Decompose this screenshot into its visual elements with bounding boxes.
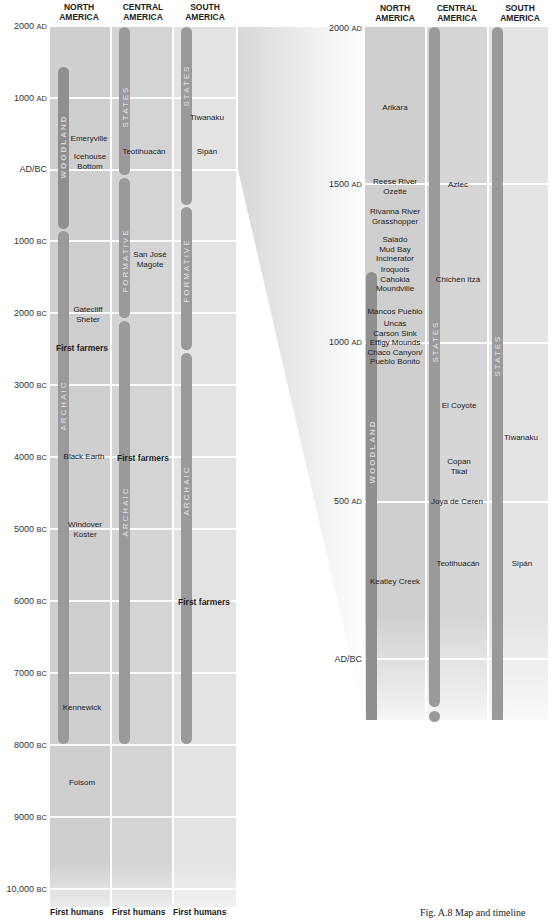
period-label-sa-formative: FORMATIVE — [182, 231, 191, 311]
gridline-9000bc — [50, 816, 236, 818]
header-central-america-right: CENTRALAMERICA — [424, 3, 490, 23]
site-keatley-creek: Keatley Creek — [363, 577, 427, 587]
header-north-america: NORTHAMERICA — [46, 2, 112, 22]
site-sa-first-farmers: First farmers — [174, 597, 234, 607]
tick-1500ad-right: 1500 AD — [329, 179, 362, 189]
tick-7000bc: 7000 BC — [14, 668, 47, 678]
tick-9000bc: 9000 BC — [14, 812, 47, 822]
tick-1000ad: 1000 AD — [14, 93, 47, 103]
tick-3000bc: 3000 BC — [14, 380, 47, 390]
period-bar-sa-archaic — [181, 353, 192, 744]
site-black-earth: Black Earth — [58, 452, 110, 462]
site-folsom: Folsom — [56, 778, 108, 788]
site-tiwanaku-right: Tiwanaku — [496, 433, 546, 443]
tick-2000ad-right: 2000 AD — [329, 23, 362, 33]
site-san-jose-magote: San JoséMagote — [128, 250, 172, 270]
period-label-na-woodland: WOODLAND — [59, 112, 68, 182]
column-divider — [172, 27, 174, 907]
site-sipan: Sipán — [184, 147, 230, 157]
tick-8000bc: 8000 BC — [14, 740, 47, 750]
bottom-label-ca: First humans — [112, 907, 165, 917]
gridline-8000bc — [50, 744, 236, 746]
site-ca-first-farmers: First farmers — [114, 453, 172, 463]
site-kennewick: Kennewick — [56, 703, 108, 713]
header-north-america-right: NORTHAMERICA — [362, 3, 428, 23]
bottom-label-sa: First humans — [173, 907, 226, 917]
period-label-sa-states-right: STATES — [493, 326, 502, 386]
site-reese-river-ozette: Reese RiverOzette — [363, 177, 427, 197]
tick-adbc: AD/BC — [19, 164, 47, 174]
site-salado-mudbay-incinerator: SaladoMud BayIncinerator — [363, 235, 427, 264]
site-emeryville: Emeryville — [66, 134, 112, 144]
tick-5000bc: 5000 BC — [14, 524, 47, 534]
site-uncas-chaco-group: UncasCarson SinkEffigy MoundsChaco Canyo… — [361, 319, 429, 367]
period-label-na-archaic: ARCHAIC — [59, 375, 68, 437]
gridline-10000bc — [50, 888, 236, 890]
gridline-1000ad — [50, 97, 236, 99]
site-windover-koster: WindoverKoster — [60, 520, 110, 540]
period-label-ca-states-right: STATES — [431, 312, 440, 372]
period-label-na-woodland-right: WOODLAND — [368, 417, 377, 487]
tick-2000ad: 2000 AD — [14, 21, 47, 31]
site-mancos-pueblo: Mancos Pueblo — [363, 307, 427, 317]
header-south-america: SOUTHAMERICA — [172, 2, 238, 22]
site-icehouse-bottom: IcehouseBottom — [68, 152, 112, 172]
gridline-3000bc — [50, 384, 236, 386]
period-label-sa-archaic: ARCHAIC — [182, 460, 191, 522]
gridline-1000bc — [50, 240, 236, 242]
period-label-sa-states: STATES — [182, 56, 191, 116]
site-arikara: Arikara — [365, 103, 425, 113]
site-teotihuacan: Teotihuacán — [116, 147, 172, 157]
header-central-america: CENTRALAMERICA — [110, 2, 176, 22]
site-tiwanaku: Tiwanaku — [184, 113, 230, 123]
tick-2000bc: 2000 BC — [14, 308, 47, 318]
tick-6000bc: 6000 BC — [14, 596, 47, 606]
gridline-adbc-right — [365, 658, 548, 660]
header-south-america-right: SOUTHAMERICA — [487, 3, 553, 23]
site-teotihuacan-right: Teotihuacán — [427, 559, 489, 569]
site-chichen-itza: Chichén Itzá — [428, 275, 488, 285]
site-copan-tikal: CopanTikal — [433, 457, 485, 477]
period-bar-ca-states-right-tail — [429, 711, 440, 722]
gridline-7000bc — [50, 672, 236, 674]
tick-500ad-right: 500 AD — [334, 496, 362, 506]
site-aztec: Aztec — [436, 180, 480, 190]
site-gatecliff-sheter: GatecliffSheter — [66, 305, 110, 325]
bottom-label-na: First humans — [50, 907, 103, 917]
tick-1000bc: 1000 BC — [14, 236, 47, 246]
site-joya-de-ceren: Joya de Ceren — [425, 497, 489, 507]
period-label-ca-archaic: ARCHAIC — [121, 481, 130, 543]
tick-4000bc: 4000 BC — [14, 452, 47, 462]
site-el-coyote: El Coyote — [433, 401, 485, 411]
site-sipan-right: Sipán — [500, 559, 544, 569]
tick-1000ad-right: 1000 AD — [329, 337, 362, 347]
tick-adbc-right: AD/BC — [334, 654, 362, 664]
site-rivanna-grasshopper: Rivanna RiverGrasshopper — [363, 207, 427, 227]
site-iroquois-cahokia-moundville: IroquoisCahokiaMoundville — [363, 265, 427, 294]
period-label-ca-states: STATES — [121, 77, 130, 137]
tick-10000bc: 10,000 BC — [7, 884, 47, 894]
site-na-first-farmers: First farmers — [52, 343, 112, 353]
figure-caption: Fig. A.8 Map and timeline — [420, 907, 526, 918]
